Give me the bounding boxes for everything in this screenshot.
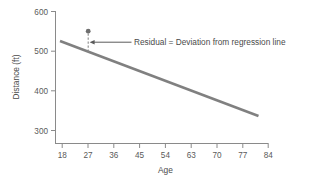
residual-callout-leader [90,40,132,45]
x-axis-tick-labels: 18 27 36 45 54 63 70 77 84 [58,151,274,160]
x-tick-label-84: 84 [264,151,274,160]
x-tick-label-27: 27 [83,151,93,160]
y-tick-label-300: 300 [34,127,48,136]
y-axis-title: Distance (ft) [11,54,21,99]
y-axis-tick-labels: 600 500 400 300 [34,8,48,136]
x-axis-ticks [62,144,268,149]
x-tick-label-18: 18 [58,151,68,160]
x-tick-label-36: 36 [109,151,119,160]
x-tick-label-45: 45 [135,151,145,160]
x-tick-label-70: 70 [212,151,222,160]
y-tick-label-600: 600 [34,8,48,17]
x-tick-label-54: 54 [161,151,171,160]
regression-residual-chart: 600 500 400 300 18 27 36 45 54 63 70 77 [0,0,312,184]
observed-data-point [86,29,91,34]
chart-canvas: 600 500 400 300 18 27 36 45 54 63 70 77 [0,0,312,184]
y-tick-label-500: 500 [34,47,48,56]
x-axis-title: Age [158,165,173,175]
residual-callout-label: Residual = Deviation from regression lin… [134,37,286,47]
regression-line [60,41,259,116]
x-tick-label-77: 77 [238,151,248,160]
y-tick-label-400: 400 [34,87,48,96]
y-axis-ticks [51,12,55,131]
callout-arrowhead-icon [90,40,95,45]
x-tick-label-63: 63 [187,151,197,160]
